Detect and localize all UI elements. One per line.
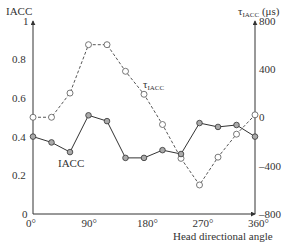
iacc-data-point — [215, 124, 221, 130]
tau-data-point — [197, 182, 203, 188]
tau-data-point — [160, 122, 166, 128]
tau-data-point — [234, 131, 240, 137]
x-tick-label: 270° — [193, 217, 214, 229]
left-tick-label: 0.8 — [12, 53, 26, 65]
series-label-iacc: IACC — [58, 157, 84, 169]
iacc-data-point — [141, 155, 147, 161]
x-tick-label: 180° — [137, 217, 158, 229]
left-tick-label: 1 — [23, 15, 29, 27]
iacc-data-point — [160, 147, 166, 153]
tau-data-point — [141, 91, 147, 97]
x-axis-ticks: 0°90°180°270°360° — [26, 217, 269, 229]
x-tick-label: 360° — [248, 217, 269, 229]
x-tick-label: 90° — [82, 217, 97, 229]
series-label-tau: τIACC — [143, 78, 164, 92]
iacc-data-point — [86, 113, 92, 119]
tau-data-point — [67, 90, 73, 96]
right-tick-label: 0 — [259, 111, 265, 123]
tau-data-point — [30, 114, 36, 120]
tau-data-point — [123, 68, 129, 74]
left-tick-label: 0.2 — [12, 169, 26, 181]
right-tick-label: 800 — [259, 15, 276, 27]
tau-data-point — [252, 112, 258, 118]
tau-data-point — [49, 114, 55, 120]
iacc-data-point — [178, 151, 184, 157]
x-tick-label: 0° — [26, 217, 36, 229]
tau-data-point — [215, 154, 221, 160]
iacc-data-point — [104, 118, 110, 124]
iacc-data-point — [252, 134, 258, 140]
right-tick-label: –400 — [258, 160, 282, 172]
iacc-data-point — [123, 155, 129, 161]
x-axis-title: Head directional angle — [173, 230, 273, 242]
iacc-data-point — [30, 134, 36, 140]
tau-data-point — [104, 42, 110, 48]
iacc-data-point — [67, 149, 73, 155]
left-tick-label: 0.4 — [12, 131, 26, 143]
iacc-data-point — [234, 122, 240, 128]
right-tick-label: 400 — [259, 63, 276, 75]
iacc-line — [33, 115, 255, 158]
right-axis-ticks: 8004000–400–800 — [258, 15, 282, 221]
left-axis-ticks: 00.20.40.60.81 — [12, 15, 29, 221]
dual-axis-line-chart: IACC τIACC (μs) 00.20.40.60.81 8004000–4… — [0, 0, 293, 252]
iacc-data-point — [49, 140, 55, 146]
series-iacc — [30, 113, 258, 161]
iacc-data-point — [197, 120, 203, 126]
left-tick-label: 0.6 — [12, 92, 26, 104]
tau-data-point — [86, 42, 92, 48]
